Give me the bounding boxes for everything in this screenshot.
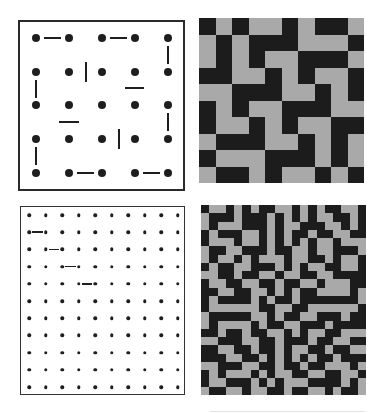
tile-black	[284, 263, 292, 271]
tile-black	[242, 345, 250, 353]
tile-gray	[308, 279, 316, 287]
dot	[126, 368, 130, 372]
tile-black	[298, 51, 315, 68]
tile-gray	[350, 255, 358, 263]
tile-black	[317, 230, 325, 238]
tile-black	[341, 296, 349, 304]
tile-black	[333, 255, 341, 263]
tile-gray	[292, 329, 300, 337]
tile-black	[234, 337, 242, 345]
dot	[131, 68, 139, 76]
tile-black	[333, 205, 341, 213]
tile-gray	[331, 35, 348, 52]
tile-black	[350, 337, 358, 345]
tile-black	[267, 370, 275, 378]
tile-black	[201, 354, 209, 362]
tile-black	[348, 35, 365, 52]
tile-black	[259, 230, 267, 238]
dot	[176, 282, 180, 286]
tile-black	[300, 387, 308, 395]
tile-black	[216, 68, 233, 85]
dot	[176, 230, 180, 234]
dot	[93, 316, 97, 320]
footer-rule	[210, 411, 365, 412]
tile-gray	[216, 101, 233, 118]
tile-gray	[201, 362, 209, 370]
tile-black	[251, 271, 259, 279]
tile-gray	[308, 387, 316, 395]
dot	[164, 101, 172, 109]
tile-black	[234, 378, 242, 386]
domino-bar	[32, 231, 43, 233]
tile-grid	[199, 18, 364, 183]
tile-black	[317, 312, 325, 320]
tile-gray	[358, 296, 366, 304]
tile-gray	[333, 304, 341, 312]
tile-gray	[218, 222, 226, 230]
tile-black	[249, 51, 266, 68]
tile-black	[209, 321, 217, 329]
tile-black	[308, 296, 316, 304]
tile-black	[201, 345, 209, 353]
tile-gray	[333, 230, 341, 238]
tile-gray	[325, 345, 333, 353]
tile-black	[358, 205, 366, 213]
tile-black	[308, 321, 316, 329]
dot	[44, 282, 48, 286]
tile-black	[265, 68, 282, 85]
dot	[143, 299, 147, 303]
tile-black	[209, 345, 217, 353]
dot	[93, 230, 97, 234]
dot	[131, 135, 139, 143]
tile-gray	[292, 321, 300, 329]
dot	[93, 282, 97, 286]
tile-gray	[350, 345, 358, 353]
tile-gray	[267, 271, 275, 279]
tile-gray	[300, 213, 308, 221]
tile-gray	[333, 288, 341, 296]
tile-gray	[282, 51, 299, 68]
tile-gray	[232, 117, 249, 134]
tile-black	[325, 329, 333, 337]
tile-black	[292, 304, 300, 312]
tile-black	[267, 205, 275, 213]
tile-black	[275, 238, 283, 246]
dot	[77, 282, 81, 286]
dot	[44, 316, 48, 320]
tile-gray	[218, 238, 226, 246]
dot	[44, 265, 48, 269]
tile-gray	[325, 271, 333, 279]
tile-black	[218, 271, 226, 279]
dot	[143, 385, 147, 389]
tile-gray	[348, 150, 365, 167]
tile-black	[209, 255, 217, 263]
tile-gray	[341, 312, 349, 320]
tile-black	[275, 246, 283, 254]
dot	[60, 316, 64, 320]
tile-black	[350, 288, 358, 296]
tile-black	[358, 354, 366, 362]
tile-gray	[251, 304, 259, 312]
tile-black	[242, 288, 250, 296]
tile-black	[218, 263, 226, 271]
tile-black	[292, 312, 300, 320]
tile-gray	[275, 312, 283, 320]
tile-black	[216, 167, 233, 184]
tile-black	[300, 329, 308, 337]
tile-gray	[251, 312, 259, 320]
tile-gray	[348, 51, 365, 68]
tile-black	[199, 117, 216, 134]
tile-gray	[232, 150, 249, 167]
tile-black	[325, 312, 333, 320]
dot	[27, 213, 31, 217]
tile-black	[308, 345, 316, 353]
tile-black	[350, 296, 358, 304]
tile-black	[317, 354, 325, 362]
tile-black	[267, 345, 275, 353]
tile-gray	[325, 304, 333, 312]
tile-gray	[331, 167, 348, 184]
tile-gray	[259, 255, 267, 263]
tile-black	[350, 321, 358, 329]
tile-black	[265, 84, 282, 101]
tile-gray	[265, 117, 282, 134]
